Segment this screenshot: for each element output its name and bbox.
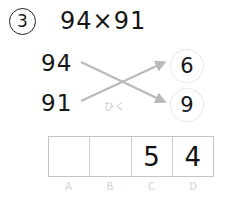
operation-caption: ひく — [104, 101, 125, 113]
result-circle-bottom: 9 — [170, 88, 204, 122]
answer-cell-d[interactable]: 4 — [173, 137, 213, 176]
answer-column-labels: A B C D — [48, 180, 214, 196]
result-value-bottom: 9 — [180, 95, 193, 116]
worksheet-problem-canvas: 3 94×91 94 91 ひく 6 9 — [0, 0, 227, 206]
answer-cell-b[interactable] — [90, 137, 131, 176]
column-label-d: D — [173, 180, 215, 196]
problem-number-badge: 3 — [9, 8, 36, 35]
answer-cell-a[interactable] — [49, 137, 90, 176]
answer-cell-c[interactable]: 5 — [132, 137, 173, 176]
problem-number-label: 3 — [17, 13, 28, 30]
arrow-up-right-icon — [81, 63, 163, 101]
column-label-a: A — [48, 180, 90, 196]
answer-value-d: 4 — [185, 144, 202, 170]
operand-top: 94 — [41, 50, 72, 76]
arrow-down-right-icon — [81, 62, 163, 101]
answer-table: 5 4 — [48, 136, 214, 177]
result-value-top: 6 — [180, 56, 193, 77]
problem-expression: 94×91 — [60, 7, 146, 35]
column-label-b: B — [90, 180, 132, 196]
operand-bottom: 91 — [41, 90, 72, 116]
column-label-c: C — [131, 180, 173, 196]
answer-value-c: 5 — [143, 144, 160, 170]
result-circle-top: 6 — [170, 49, 204, 83]
